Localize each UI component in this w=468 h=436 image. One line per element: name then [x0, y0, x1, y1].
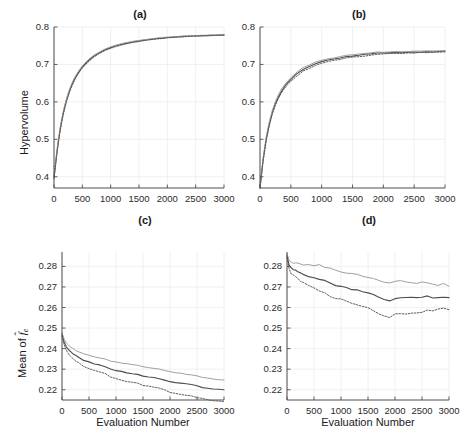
y-tick-label: 0.6 [220, 96, 255, 107]
y-tick-label: 0.24 [22, 343, 57, 354]
y-tick-label: 0.7 [220, 58, 255, 69]
y-tick-label: 0.5 [14, 133, 49, 144]
y-tick-label: 0.24 [247, 343, 282, 354]
panel-a-title: (a) [95, 8, 185, 20]
y-tick-label: 0.8 [14, 21, 49, 32]
y-tick-label: 0.27 [22, 281, 57, 292]
y-tick-label: 0.7 [14, 58, 49, 69]
figure-container: (a) Hypervolume 050010001500200025003000… [0, 0, 468, 436]
y-tick-label: 0.26 [247, 302, 282, 313]
y-tick-label: 0.4 [220, 171, 255, 182]
y-tick-label: 0.27 [247, 281, 282, 292]
y-tick-label: 0.5 [220, 133, 255, 144]
panel-c-xlabel: Evaluation Number [58, 416, 228, 428]
y-tick-label: 0.25 [22, 322, 57, 333]
panel-d: (d) 0500100015002000250030000.220.230.24… [234, 210, 468, 436]
y-tick-label: 0.26 [22, 302, 57, 313]
panel-c-title: (c) [100, 214, 190, 226]
y-tick-label: 0.22 [247, 384, 282, 395]
y-tick-label: 0.25 [247, 322, 282, 333]
panel-b-title: (b) [314, 8, 404, 20]
panel-a: (a) Hypervolume 050010001500200025003000… [0, 0, 234, 210]
x-tick-label: 3000 [423, 193, 467, 204]
panel-d-xlabel: Evaluation Number [282, 416, 454, 428]
panel-a-plot: 0500100015002000250030000.40.50.60.70.8 [54, 27, 224, 188]
panel-c: (c) Mean of ̂fe 050010001500200025003000… [0, 210, 234, 436]
y-tick-label: 0.6 [14, 96, 49, 107]
panel-d-plot: 0500100015002000250030000.220.230.240.25… [287, 252, 449, 400]
panel-d-title: (d) [324, 214, 414, 226]
panel-c-plot: 0500100015002000250030000.220.230.240.25… [62, 252, 224, 400]
y-tick-label: 0.28 [247, 260, 282, 271]
y-tick-label: 0.22 [22, 384, 57, 395]
y-tick-label: 0.23 [22, 363, 57, 374]
y-tick-label: 0.4 [14, 171, 49, 182]
y-tick-label: 0.23 [247, 363, 282, 374]
x-tick-label: 3000 [427, 405, 468, 416]
panel-b: (b) 0500100015002000250030000.40.50.60.7… [234, 0, 468, 210]
y-tick-label: 0.28 [22, 260, 57, 271]
y-tick-label: 0.8 [220, 21, 255, 32]
panel-b-plot: 0500100015002000250030000.40.50.60.70.8 [260, 27, 445, 188]
